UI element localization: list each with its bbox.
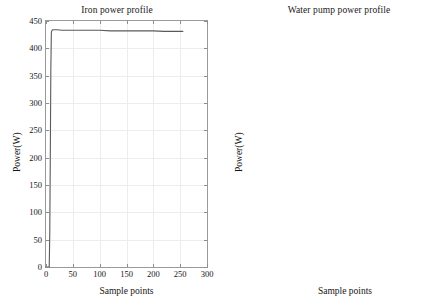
y-tick-label: 50 (34, 235, 43, 245)
data-series-iron (46, 21, 207, 267)
y-tick-label: 150 (29, 180, 42, 190)
y-axis-tick-left (46, 267, 49, 268)
y-axis-tick-right (204, 103, 207, 104)
x-axis-tick-bottom (73, 264, 74, 267)
y-axis-tick-left (46, 212, 49, 213)
x-tick-label: 50 (69, 269, 78, 279)
x-tick-label: 200 (147, 269, 160, 279)
y-axis-tick-left (46, 48, 49, 49)
series-svg-iron (46, 21, 207, 267)
x-axis-tick-bottom (46, 264, 47, 267)
x-tick-label: 0 (44, 269, 48, 279)
y-tick-label: 100 (29, 207, 42, 217)
y-axis-title-iron: Power(W) (12, 132, 22, 172)
figure-root: Iron power profile 050100150200250300350… (0, 0, 441, 301)
x-tick-label: 250 (174, 269, 187, 279)
x-axis-tick-bottom (207, 264, 208, 267)
chart-title-water-pump: Water pump power profile (242, 5, 436, 15)
y-axis-tick-left (46, 240, 49, 241)
x-axis-tick-bottom (127, 264, 128, 267)
y-axis-tick-right (204, 267, 207, 268)
x-tick-label: 100 (93, 269, 106, 279)
y-axis-tick-right (204, 158, 207, 159)
x-axis-tick-top (207, 21, 208, 24)
x-axis-tick-top (46, 21, 47, 24)
y-axis-tick-right (204, 48, 207, 49)
x-axis-tick-bottom (153, 264, 154, 267)
y-tick-label: 250 (29, 125, 42, 135)
y-tick-label: 400 (29, 43, 42, 53)
x-axis-tick-top (100, 21, 101, 24)
y-axis-tick-right (204, 240, 207, 241)
y-tick-label: 0 (38, 262, 42, 272)
y-axis-tick-left (46, 158, 49, 159)
chart-title-iron: Iron power profile (20, 5, 214, 15)
y-tick-label: 300 (29, 98, 42, 108)
x-axis-title-iron: Sample points (45, 286, 208, 296)
y-axis-tick-right (204, 130, 207, 131)
y-axis-tick-left (46, 185, 49, 186)
x-axis-tick-top (180, 21, 181, 24)
y-tick-label: 450 (29, 16, 42, 26)
x-axis-tick-top (73, 21, 74, 24)
x-axis-title-water-pump: Sample points (265, 286, 425, 296)
series-line (46, 30, 183, 267)
y-axis-tick-left (46, 76, 49, 77)
x-tick-label: 300 (201, 269, 214, 279)
x-axis-tick-top (153, 21, 154, 24)
plot-area-iron: 0501001502002503003504004500501001502002… (45, 20, 208, 268)
chart-panel-iron: Iron power profile 050100150200250300350… (0, 0, 220, 301)
chart-panel-water-pump: Water pump power profile 020040060080010… (220, 0, 440, 301)
x-tick-label: 150 (120, 269, 133, 279)
y-tick-label: 200 (29, 153, 42, 163)
y-axis-tick-left (46, 130, 49, 131)
y-axis-title-water-pump: Power(W) (234, 132, 244, 172)
y-axis-tick-right (204, 212, 207, 213)
y-tick-label: 350 (29, 71, 42, 81)
x-axis-tick-top (127, 21, 128, 24)
y-axis-tick-right (204, 185, 207, 186)
x-axis-tick-bottom (100, 264, 101, 267)
x-axis-tick-bottom (180, 264, 181, 267)
y-axis-tick-left (46, 103, 49, 104)
y-axis-tick-right (204, 76, 207, 77)
